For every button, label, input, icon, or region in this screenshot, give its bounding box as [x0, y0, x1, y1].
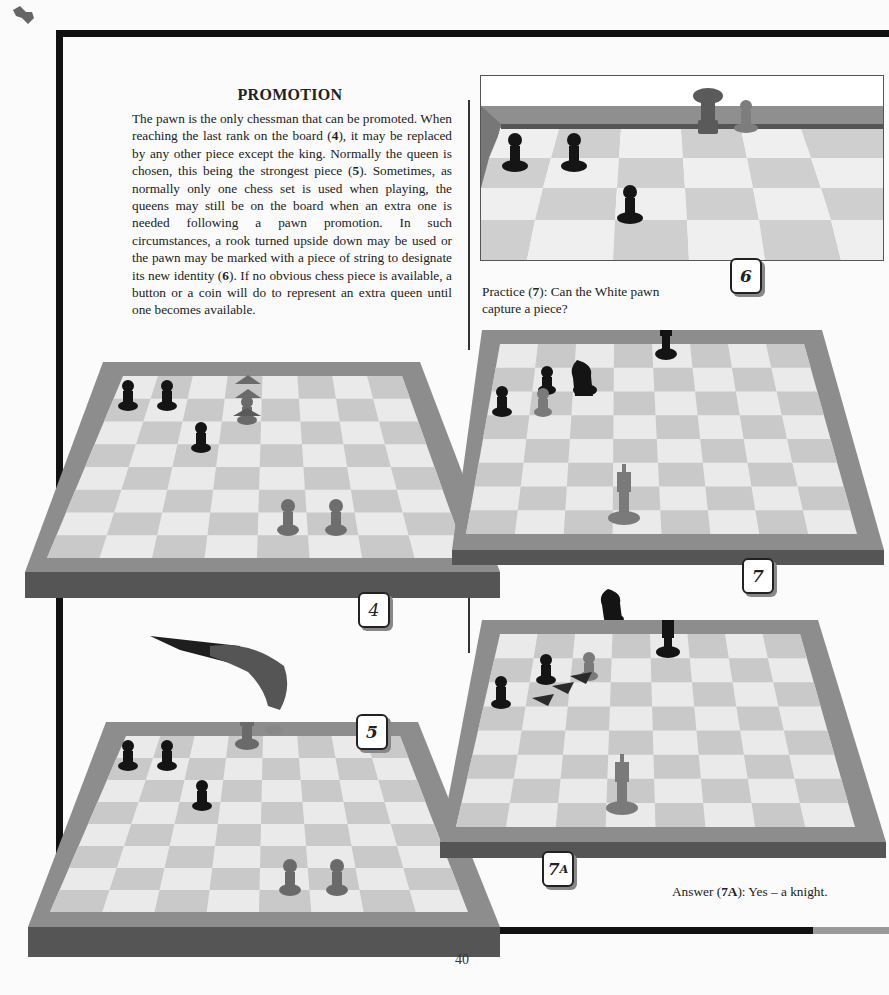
figure-label-7a: 7A: [542, 851, 574, 887]
figure-4-board: [25, 362, 500, 598]
page-bottom-rule-grey: [813, 927, 889, 934]
figure-label-text: 5: [366, 722, 378, 742]
page-number: 40: [455, 952, 469, 968]
answer-text: Answer (7A): Yes – a knight.: [672, 883, 882, 900]
figure-ref: 5: [353, 163, 360, 178]
answer-prefix: Answer (: [672, 884, 721, 899]
figure-5-hand: [150, 636, 290, 716]
section-title: PROMOTION: [130, 86, 450, 104]
intro-paragraph: The pawn is the only chessman that can b…: [132, 110, 452, 319]
figure-ref: 6: [222, 268, 229, 283]
figure-label-4: 4: [358, 592, 390, 628]
page-bottom-rule: [470, 927, 813, 934]
practice-prefix: Practice (: [482, 284, 533, 299]
page-top-rule: [56, 30, 889, 37]
figure-label-6: 6: [730, 258, 762, 294]
practice-question: Practice (7): Can the White pawn capture…: [482, 283, 682, 317]
figure-label-sub: A: [560, 863, 569, 876]
answer-ref: 7A: [721, 884, 737, 899]
figure-7-board: [452, 330, 884, 565]
figure-7a-board: [440, 620, 886, 858]
corner-chess-piece-icon: [10, 4, 36, 26]
figure-ref: 4: [332, 128, 339, 143]
answer-suffix: ): Yes – a knight.: [737, 884, 827, 899]
column-divider: [468, 100, 470, 350]
figure-6-photo: [480, 75, 884, 261]
figure-label-text: 6: [740, 266, 752, 286]
figure-5-board: [28, 722, 500, 957]
figure-label-text: 4: [369, 600, 380, 620]
figure-label-5: 5: [356, 714, 388, 750]
figure-label-text: 7: [752, 566, 764, 586]
figure-label-text: 7: [548, 859, 560, 879]
